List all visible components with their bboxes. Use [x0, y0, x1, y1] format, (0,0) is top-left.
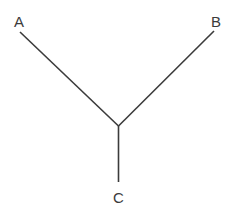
diagram-canvas: A B C — [0, 0, 235, 211]
y-junction-diagram: A B C — [0, 0, 235, 211]
edge-junction-to-a — [20, 32, 119, 126]
edge-junction-to-b — [119, 31, 215, 126]
vertex-label-b: B — [211, 13, 221, 30]
vertex-label-a: A — [14, 13, 24, 30]
vertex-label-c: C — [113, 189, 124, 206]
